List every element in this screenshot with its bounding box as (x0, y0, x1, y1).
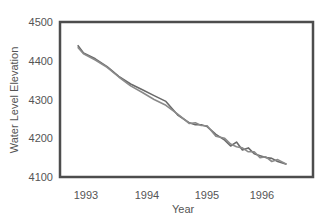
x-tick-label: 1994 (135, 189, 159, 201)
y-tick-label: 4100 (29, 171, 53, 183)
y-axis-title: Water Level Elevation (8, 47, 20, 154)
x-tick-label: 1996 (250, 189, 274, 201)
y-tick-label: 4500 (29, 16, 53, 28)
x-axis-title: Year (172, 203, 195, 215)
x-tick-label: 1993 (74, 189, 98, 201)
x-tick-label: 1995 (195, 189, 219, 201)
plot-frame (60, 22, 313, 177)
y-tick-label: 4200 (29, 132, 53, 144)
y-tick-label: 4300 (29, 94, 53, 106)
line-chart: 45004400430042004100 1993199419951996 Ye… (0, 0, 324, 223)
y-tick-label: 4400 (29, 55, 53, 67)
